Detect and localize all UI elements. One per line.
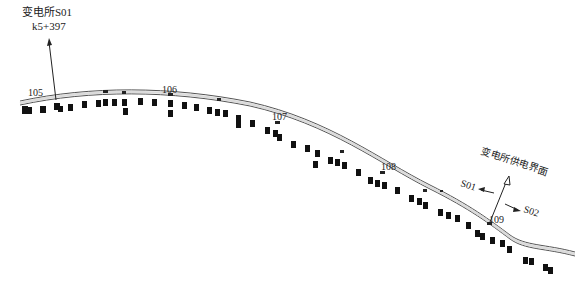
s02-direction-arrow <box>505 204 521 212</box>
s01-direction-arrow <box>478 187 494 193</box>
milepost-107: 107 <box>272 111 287 122</box>
substation-chainage: k5+397 <box>32 20 66 32</box>
substation-pointer <box>47 38 56 100</box>
milepost-106: 106 <box>162 84 177 95</box>
milepost-109: 109 <box>489 214 504 225</box>
substation-name: 变电所S01 <box>22 5 72 18</box>
track-markers <box>103 90 492 225</box>
boundary-label: 变电所供电界面 <box>479 144 549 177</box>
railway-plan-diagram: 变电所S01 k5+397 105 106 107 108 109 变电所供电界… <box>0 0 575 292</box>
milepost-105: 105 <box>28 87 43 98</box>
boundary-s02-label: S02 <box>522 203 540 218</box>
track-alignment <box>20 90 575 256</box>
boundary-s01-label: S01 <box>459 177 477 192</box>
milepost-108: 108 <box>381 161 396 172</box>
